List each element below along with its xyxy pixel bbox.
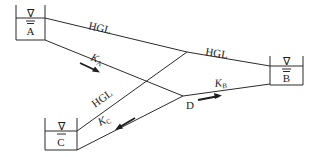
flow-arrow-c-icon xyxy=(115,118,135,130)
flow-arrow-b-icon xyxy=(198,93,222,100)
hgl-label-b: HGL xyxy=(205,45,229,60)
hgl-line-b xyxy=(187,52,270,66)
reservoir-c-label: C xyxy=(57,136,64,148)
water-surface-icon: ∇ xyxy=(57,120,66,132)
hgl-label-a: HGL xyxy=(88,19,113,36)
pipe-c-label: KC xyxy=(95,112,113,130)
three-reservoir-diagram: ∇ A ∇ B ∇ C HGL HGL HGL D KA KB KC xyxy=(0,0,309,157)
pipe-b-label-sub: B xyxy=(222,82,228,90)
reservoir-b-label: B xyxy=(283,72,290,84)
reservoir-b: ∇ B xyxy=(270,55,303,85)
water-surface-icon: ∇ xyxy=(282,55,291,67)
reservoir-a-label: A xyxy=(27,25,35,37)
water-surface-icon: ∇ xyxy=(26,7,35,19)
reservoir-a: ∇ A xyxy=(16,5,45,40)
junction-d-label: D xyxy=(186,99,194,111)
hgl-line-a xyxy=(45,18,187,52)
pipe-a-label: KA xyxy=(88,50,106,68)
pipe-a-to-d xyxy=(45,40,183,96)
reservoir-c: ∇ C xyxy=(45,118,77,150)
pipe-b-label: KB xyxy=(213,76,228,91)
